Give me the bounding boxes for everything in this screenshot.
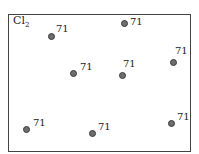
- molecule-label: Cl2: [13, 14, 29, 29]
- molecule-dot: [70, 70, 77, 77]
- molecule-dot: [168, 120, 175, 127]
- molecule-dot: [170, 59, 177, 66]
- molecule-dot: [48, 33, 55, 40]
- mass-label: 71: [33, 118, 46, 128]
- molecule-dot: [23, 126, 30, 133]
- mass-label: 71: [56, 24, 69, 34]
- molecule-dot: [89, 130, 96, 137]
- mass-label: 71: [98, 122, 111, 132]
- mass-label: 71: [177, 112, 190, 122]
- molecule-dot: [119, 72, 126, 79]
- mass-label: 71: [123, 59, 136, 69]
- mass-label: 71: [130, 17, 143, 27]
- mass-label: 71: [80, 62, 93, 72]
- molecule-dot: [121, 20, 128, 27]
- mass-label: 71: [175, 46, 188, 56]
